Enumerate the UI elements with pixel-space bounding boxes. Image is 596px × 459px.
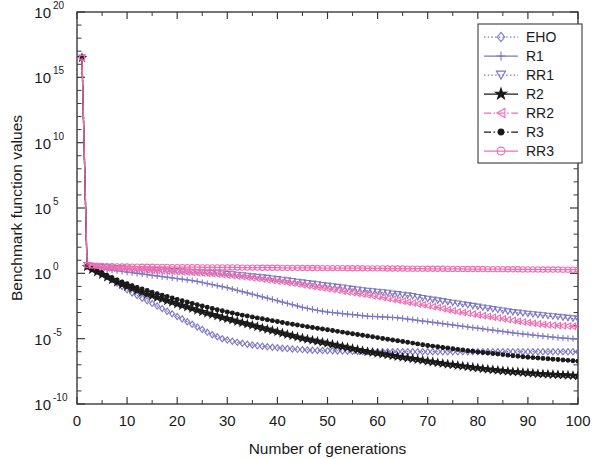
marker-dot — [346, 331, 350, 335]
y-tick-label: 105 — [34, 196, 59, 217]
marker-dot — [451, 347, 455, 351]
marker-dot — [421, 343, 425, 347]
marker-dot — [386, 337, 390, 341]
marker-dot — [306, 325, 310, 329]
x-tick-label: 50 — [319, 412, 336, 429]
marker-dot — [321, 327, 325, 331]
marker-dot — [135, 286, 139, 290]
legend-label: R2 — [526, 86, 544, 102]
svg-text:5: 5 — [53, 196, 59, 207]
svg-text:10: 10 — [34, 265, 51, 282]
chart-figure: 0102030405060708090100102010151010105100… — [0, 0, 596, 459]
x-tick-label: 10 — [119, 412, 136, 429]
marker-dot — [356, 333, 360, 337]
marker-dot — [376, 336, 380, 340]
y-tick-label: 1020 — [34, 0, 64, 21]
marker-dot — [471, 349, 475, 353]
marker-dot — [516, 354, 520, 358]
legend-label: RR2 — [526, 105, 554, 121]
x-tick-label: 80 — [469, 412, 486, 429]
marker-dot — [160, 293, 164, 297]
y-tick-label: 1010 — [34, 131, 64, 152]
marker-dot — [546, 357, 550, 361]
marker-dot — [220, 309, 224, 313]
marker-dot — [326, 328, 330, 332]
svg-text:10: 10 — [34, 396, 51, 413]
legend-label: R3 — [526, 124, 544, 140]
marker-dot — [331, 329, 335, 333]
x-tick-label: 60 — [369, 412, 386, 429]
marker-dot — [476, 350, 480, 354]
x-tick-label: 90 — [520, 412, 537, 429]
marker-dot — [301, 324, 305, 328]
marker-dot — [536, 356, 540, 360]
y-tick-label: 100 — [34, 261, 59, 282]
marker-dot — [105, 274, 109, 278]
svg-text:0: 0 — [53, 261, 59, 272]
svg-text:10: 10 — [34, 135, 51, 152]
legend-label: EHO — [526, 29, 556, 45]
marker-dot — [486, 351, 490, 355]
marker-dot — [311, 326, 315, 330]
marker-dot — [336, 329, 340, 333]
svg-text:10: 10 — [34, 4, 51, 21]
benchmark-convergence-chart: 0102030405060708090100102010151010105100… — [0, 0, 596, 459]
marker-dot — [260, 317, 264, 321]
marker-dot — [235, 312, 239, 316]
marker-dot — [498, 129, 504, 135]
marker-dot — [496, 352, 500, 356]
marker-dot — [426, 344, 430, 348]
marker-dot — [255, 316, 259, 320]
marker-dot — [566, 358, 570, 362]
svg-text:20: 20 — [53, 0, 65, 11]
svg-text:10: 10 — [34, 331, 51, 348]
marker-dot — [456, 347, 460, 351]
marker-dot — [275, 320, 279, 324]
marker-dot — [341, 330, 345, 334]
marker-dot — [571, 359, 575, 363]
legend-label: RR1 — [526, 67, 554, 83]
marker-dot — [576, 359, 580, 363]
marker-dot — [165, 295, 169, 299]
svg-text:15: 15 — [53, 65, 65, 76]
marker-dot — [411, 341, 415, 345]
marker-dot — [381, 336, 385, 340]
marker-dot — [391, 338, 395, 342]
x-tick-label: 70 — [419, 412, 436, 429]
marker-dot — [250, 315, 254, 319]
marker-dot — [125, 282, 129, 286]
marker-dot — [521, 355, 525, 359]
marker-dot — [416, 342, 420, 346]
marker-dot — [466, 349, 470, 353]
marker-dot — [406, 340, 410, 344]
x-tick-label: 100 — [565, 412, 590, 429]
marker-dot — [351, 332, 355, 336]
y-tick-label: 1015 — [34, 65, 64, 86]
x-tick-label: 20 — [169, 412, 186, 429]
marker-dot — [285, 321, 289, 325]
marker-dot — [140, 287, 144, 291]
legend: EHOR1RR1R2RR2R3RR3 — [478, 24, 582, 163]
marker-dot — [481, 351, 485, 355]
marker-dot — [145, 289, 149, 293]
marker-dot — [431, 344, 435, 348]
marker-dot — [110, 276, 114, 280]
marker-dot — [150, 290, 154, 294]
marker-dot — [280, 321, 284, 325]
marker-dot — [170, 296, 174, 300]
marker-dot — [531, 356, 535, 360]
marker-dot — [401, 340, 405, 344]
marker-dot — [396, 339, 400, 343]
marker-dot — [461, 348, 465, 352]
x-axis-label: Number of generations — [249, 440, 407, 457]
marker-dot — [491, 352, 495, 356]
x-tick-label: 40 — [269, 412, 286, 429]
marker-dot — [541, 356, 545, 360]
marker-dot — [195, 303, 199, 307]
marker-dot — [561, 358, 565, 362]
marker-dot — [205, 305, 209, 309]
marker-dot — [120, 280, 124, 284]
marker-dot — [551, 357, 555, 361]
legend-label: RR3 — [526, 143, 554, 159]
marker-dot — [225, 310, 229, 314]
